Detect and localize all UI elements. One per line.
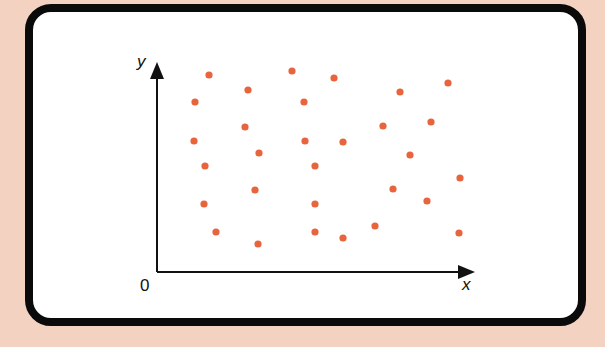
- y-axis-arrow-icon: [150, 62, 164, 79]
- data-point: [254, 240, 261, 247]
- data-point: [339, 234, 346, 241]
- origin-label: 0: [140, 276, 149, 296]
- data-point: [455, 229, 462, 236]
- data-point: [201, 162, 208, 169]
- data-point: [190, 137, 197, 144]
- data-point: [212, 228, 219, 235]
- data-points: [190, 67, 463, 247]
- data-point: [339, 138, 346, 145]
- data-point: [311, 162, 318, 169]
- data-point: [191, 98, 198, 105]
- data-point: [389, 185, 396, 192]
- data-point: [205, 71, 212, 78]
- data-point: [396, 88, 403, 95]
- data-point: [311, 228, 318, 235]
- data-point: [200, 200, 207, 207]
- data-point: [371, 222, 378, 229]
- data-point: [255, 149, 262, 156]
- x-axis-label: x: [462, 275, 471, 295]
- data-point: [423, 197, 430, 204]
- data-point: [244, 86, 251, 93]
- y-axis-label: y: [137, 52, 146, 72]
- data-point: [330, 74, 337, 81]
- data-point: [288, 67, 295, 74]
- data-point: [241, 123, 248, 130]
- data-point: [379, 122, 386, 129]
- y-axis: [150, 62, 164, 272]
- data-point: [427, 118, 434, 125]
- data-point: [444, 79, 451, 86]
- scatter-plot: [0, 0, 605, 347]
- data-point: [406, 151, 413, 158]
- data-point: [251, 186, 258, 193]
- data-point: [456, 174, 463, 181]
- data-point: [301, 137, 308, 144]
- x-axis: [157, 265, 475, 279]
- data-point: [300, 98, 307, 105]
- data-point: [311, 200, 318, 207]
